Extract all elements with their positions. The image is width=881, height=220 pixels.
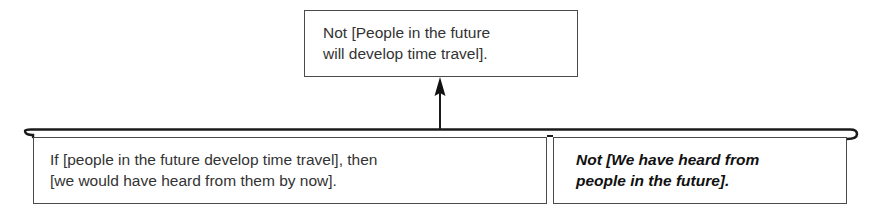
premise-2-line-1: Not [We have heard from — [576, 149, 846, 170]
conclusion-box: Not [People in the future will develop t… — [304, 10, 578, 77]
conclusion-line-2: will develop time travel]. — [323, 43, 577, 64]
conclusion-line-1: Not [People in the future — [323, 22, 577, 43]
premise-box-conditional: If [people in the future develop time tr… — [33, 137, 547, 204]
premise-box-negation: Not [We have heard from people in the fu… — [553, 137, 847, 204]
premise-1-line-1: If [people in the future develop time tr… — [50, 149, 546, 170]
argument-diagram: Not [People in the future will develop t… — [0, 0, 881, 220]
premise-2-line-2: people in the future]. — [576, 170, 846, 191]
premise-1-line-2: [we would have heard from them by now]. — [50, 170, 546, 191]
